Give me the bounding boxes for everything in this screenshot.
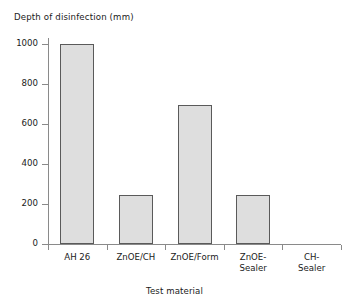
y-axis-tick-label: 400: [22, 159, 38, 168]
bar-chart-figure: Depth of disinfection (mm) 0200400600800…: [0, 0, 349, 307]
y-axis-tick-label: 600: [22, 119, 38, 128]
x-axis-tick-mark: [341, 245, 342, 250]
y-axis-title: Depth of disinfection (mm): [14, 12, 134, 22]
x-axis-category-label: CH- Sealer: [282, 252, 341, 274]
x-axis-tick-mark: [107, 245, 108, 250]
x-axis-tick-mark: [48, 245, 49, 250]
x-axis-category-label: AH 26: [48, 252, 107, 263]
bar-ah-26: [60, 44, 94, 244]
x-axis-category-label: ZnOE/Form: [165, 252, 224, 263]
x-axis-tick-mark: [282, 245, 283, 250]
x-axis-category-label: ZnOE- Sealer: [224, 252, 283, 274]
y-axis-tick-label: 1000: [16, 39, 38, 48]
x-axis-tick-mark: [224, 245, 225, 250]
y-axis-tick-label: 0: [33, 239, 38, 248]
y-axis-tick-label: 800: [22, 79, 38, 88]
x-axis-category-label: ZnOE/CH: [107, 252, 166, 263]
bar-znoe-ch: [119, 195, 153, 244]
plot-area: [48, 44, 341, 244]
x-axis-tick-mark: [165, 245, 166, 250]
bar-znoe-form: [178, 105, 212, 244]
bar-znoe-sealer: [236, 195, 270, 244]
x-axis-title: Test material: [0, 286, 349, 296]
x-axis-line: [48, 244, 341, 245]
y-axis-tick-label: 200: [22, 199, 38, 208]
